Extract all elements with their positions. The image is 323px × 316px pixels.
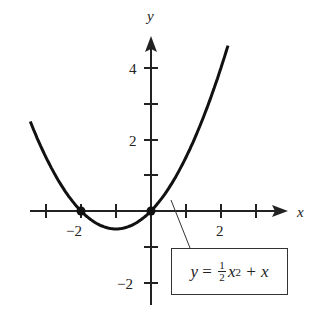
eq-denominator: 2: [219, 272, 225, 283]
y-axis-label: y: [145, 8, 154, 24]
y-tick-label-2: 2: [129, 133, 137, 149]
eq-equals: =: [198, 262, 216, 282]
x-tick-label-neg2: −2: [66, 223, 82, 239]
eq-y: y: [190, 262, 198, 282]
equation-box: y = 1 2 x2 + x: [171, 248, 288, 295]
root-point-neg2: [77, 207, 86, 216]
annotation-leader: [171, 200, 190, 248]
x-tick-label-2: 2: [216, 223, 224, 239]
y-tick-label-4: 4: [129, 61, 137, 77]
eq-fraction: 1 2: [218, 260, 226, 283]
eq-tail: + x: [241, 262, 269, 282]
root-point-origin: [147, 207, 156, 216]
eq-numerator: 1: [219, 260, 225, 271]
y-tick-label-neg2: −2: [117, 276, 133, 292]
eq-x: x: [228, 262, 236, 282]
x-axis-label: x: [296, 204, 304, 220]
